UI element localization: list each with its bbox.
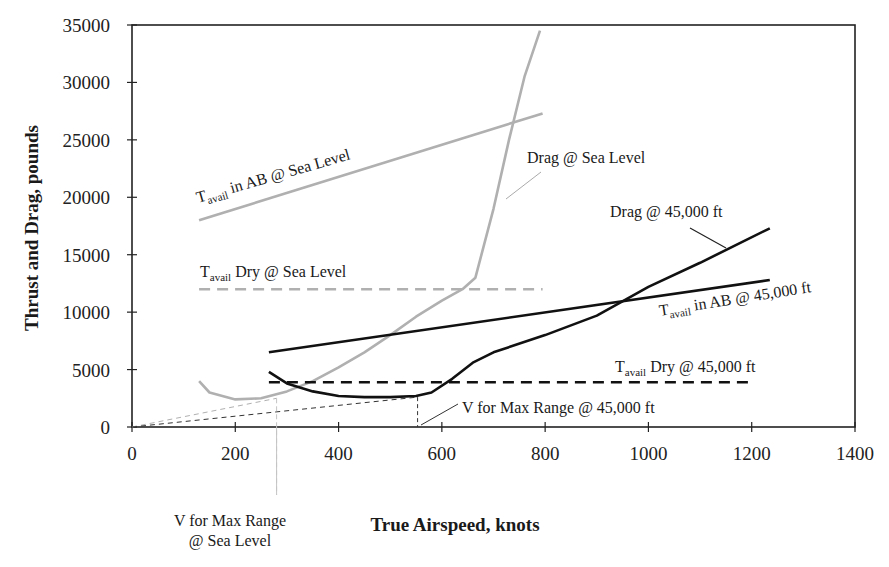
series-tangent-line-45-000-ft — [132, 397, 418, 427]
vmr-45000-leader — [421, 404, 458, 425]
y-tick-label: 5000 — [72, 360, 110, 381]
drag-sea-level-leader — [506, 172, 541, 199]
series-tangent-line-sea-level — [132, 398, 277, 427]
y-tick-label: 0 — [101, 417, 111, 438]
y-tick-label: 35000 — [63, 15, 111, 36]
x-axis-title: True Airspeed, knots — [370, 514, 539, 535]
series-drag-sea-level — [199, 31, 540, 400]
x-tick-label: 200 — [221, 443, 250, 464]
label-drag-45000: Drag @ 45,000 ft — [610, 203, 723, 221]
y-tick-label: 10000 — [63, 302, 111, 323]
x-tick-label: 800 — [531, 443, 560, 464]
label-drag-sea-level: Drag @ Sea Level — [527, 149, 646, 167]
series-tavail-in-ab-45-000-ft — [269, 280, 770, 352]
label-tavail-ab-sea-level: Tavail in AB @ Sea Level — [194, 146, 353, 209]
x-tick-label: 400 — [324, 443, 353, 464]
y-tick-label: 30000 — [63, 72, 111, 93]
y-tick-label: 25000 — [63, 130, 111, 151]
y-tick-label: 20000 — [63, 187, 111, 208]
series-tavail-in-ab-sea-level — [199, 113, 542, 220]
x-tick-label: 600 — [428, 443, 457, 464]
drag-45000-leader — [690, 228, 726, 248]
thrust-drag-chart: 0200400600800100012001400050001000015000… — [0, 0, 889, 567]
y-tick-label: 15000 — [63, 245, 111, 266]
label-tavail-dry-45000: Tavail Dry @ 45,000 ft — [615, 358, 756, 378]
x-tick-label: 1200 — [733, 443, 771, 464]
axis-ticks: 0200400600800100012001400050001000015000… — [63, 15, 875, 464]
x-tick-label: 1000 — [629, 443, 667, 464]
label-vmax-range-45000: V for Max Range @ 45,000 ft — [462, 399, 655, 417]
x-tick-label: 1400 — [836, 443, 874, 464]
label-vmax-range-sea-level: V for Max Range @ Sea Level — [150, 511, 310, 551]
x-tick-label: 0 — [127, 443, 137, 464]
y-axis-title: Thrust and Drag, pounds — [21, 125, 42, 331]
label-tavail-dry-sea-level: Tavail Dry @ Sea Level — [200, 263, 347, 283]
